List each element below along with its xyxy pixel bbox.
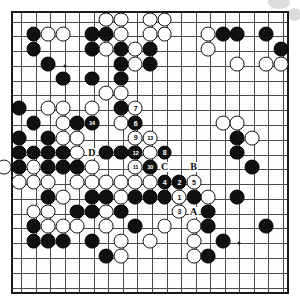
stone-white[interactable]: [55, 27, 70, 42]
stone-white[interactable]: [55, 116, 70, 131]
stone-white[interactable]: [26, 160, 41, 175]
stone-black-move-4[interactable]: 4: [157, 175, 172, 190]
stone-black-move-8[interactable]: 8: [157, 145, 172, 160]
stone-black[interactable]: [201, 204, 216, 219]
stone-white[interactable]: [186, 249, 201, 264]
stone-black[interactable]: [259, 219, 274, 234]
stone-black[interactable]: [26, 27, 41, 42]
stone-white[interactable]: [201, 27, 216, 42]
stone-black[interactable]: [113, 71, 128, 86]
stone-black-move-6[interactable]: 6: [128, 116, 143, 131]
stone-white[interactable]: [12, 175, 27, 190]
stone-white[interactable]: [201, 42, 216, 57]
stone-black[interactable]: [26, 116, 41, 131]
stone-white[interactable]: [157, 27, 172, 42]
stone-black[interactable]: [84, 27, 99, 42]
stone-black[interactable]: [215, 234, 230, 249]
stone-white[interactable]: [215, 116, 230, 131]
stone-white[interactable]: [41, 101, 56, 116]
stone-black[interactable]: [55, 160, 70, 175]
stone-black[interactable]: [230, 189, 245, 204]
stone-black[interactable]: [41, 160, 56, 175]
stone-white[interactable]: [99, 204, 114, 219]
stone-black[interactable]: [113, 42, 128, 57]
stone-black[interactable]: [244, 160, 259, 175]
stone-black[interactable]: [274, 42, 289, 57]
stone-black[interactable]: [259, 27, 274, 42]
stone-white[interactable]: [41, 175, 56, 190]
stone-white[interactable]: [99, 86, 114, 101]
stone-white[interactable]: [143, 12, 158, 27]
stone-white[interactable]: [113, 12, 128, 27]
stone-black[interactable]: [230, 145, 245, 160]
stone-black[interactable]: [55, 234, 70, 249]
stone-white-move-11[interactable]: 11: [128, 160, 143, 175]
stone-black[interactable]: [41, 145, 56, 160]
stone-white[interactable]: [230, 56, 245, 71]
stone-white[interactable]: [143, 175, 158, 190]
stone-white[interactable]: [26, 204, 41, 219]
stone-black[interactable]: [230, 130, 245, 145]
stone-black[interactable]: [143, 56, 158, 71]
stone-black[interactable]: [84, 189, 99, 204]
stone-black[interactable]: [55, 145, 70, 160]
stone-white[interactable]: [274, 56, 289, 71]
stone-black[interactable]: [215, 27, 230, 42]
stone-black-move-10[interactable]: 10: [143, 160, 158, 175]
stone-black[interactable]: [201, 219, 216, 234]
stone-black[interactable]: [84, 204, 99, 219]
stone-black[interactable]: [70, 204, 85, 219]
stone-black[interactable]: [201, 249, 216, 264]
stone-white-move-1[interactable]: 1: [172, 189, 187, 204]
stone-black[interactable]: [12, 130, 27, 145]
stone-white-move-3[interactable]: 3: [172, 204, 187, 219]
stone-black[interactable]: [55, 71, 70, 86]
stone-black[interactable]: [113, 204, 128, 219]
stone-black[interactable]: [143, 189, 158, 204]
stone-black[interactable]: [99, 189, 114, 204]
stone-black[interactable]: [41, 234, 56, 249]
stone-black[interactable]: [12, 101, 27, 116]
stone-white[interactable]: [99, 175, 114, 190]
stone-white[interactable]: [128, 42, 143, 57]
stone-white-move-9[interactable]: 9: [128, 130, 143, 145]
stone-white[interactable]: [99, 42, 114, 57]
stone-black[interactable]: [128, 189, 143, 204]
stone-white[interactable]: [230, 116, 245, 131]
stone-white[interactable]: [84, 175, 99, 190]
stone-white[interactable]: [113, 86, 128, 101]
stone-white-move-13[interactable]: 13: [143, 130, 158, 145]
stone-black-move-12[interactable]: 12: [128, 145, 143, 160]
stone-white[interactable]: [143, 234, 158, 249]
stone-black[interactable]: [41, 130, 56, 145]
stone-white[interactable]: [128, 56, 143, 71]
stone-white[interactable]: [113, 27, 128, 42]
stone-white[interactable]: [113, 175, 128, 190]
stone-white[interactable]: [113, 116, 128, 131]
stone-black[interactable]: [70, 160, 85, 175]
stone-white[interactable]: [70, 145, 85, 160]
stone-white[interactable]: [157, 12, 172, 27]
stone-white[interactable]: [99, 12, 114, 27]
stone-white[interactable]: [128, 175, 143, 190]
stone-black[interactable]: [186, 189, 201, 204]
stone-white[interactable]: [84, 160, 99, 175]
stone-white[interactable]: [186, 234, 201, 249]
stone-white[interactable]: [41, 27, 56, 42]
stone-black[interactable]: [99, 27, 114, 42]
stone-white-move-5[interactable]: 5: [186, 175, 201, 190]
stone-white[interactable]: [201, 189, 216, 204]
stone-black[interactable]: [157, 189, 172, 204]
stone-white[interactable]: [157, 219, 172, 234]
stone-white[interactable]: [99, 219, 114, 234]
stone-black[interactable]: [99, 145, 114, 160]
stone-white[interactable]: [55, 130, 70, 145]
stone-black[interactable]: [84, 71, 99, 86]
stone-black[interactable]: [70, 116, 85, 131]
stone-white[interactable]: [55, 189, 70, 204]
stone-white-move-7[interactable]: 7: [128, 101, 143, 116]
stone-black[interactable]: [84, 42, 99, 57]
stone-black[interactable]: [26, 219, 41, 234]
stone-black-move-14[interactable]: 14: [84, 116, 99, 131]
stone-black-move-2[interactable]: 2: [172, 175, 187, 190]
